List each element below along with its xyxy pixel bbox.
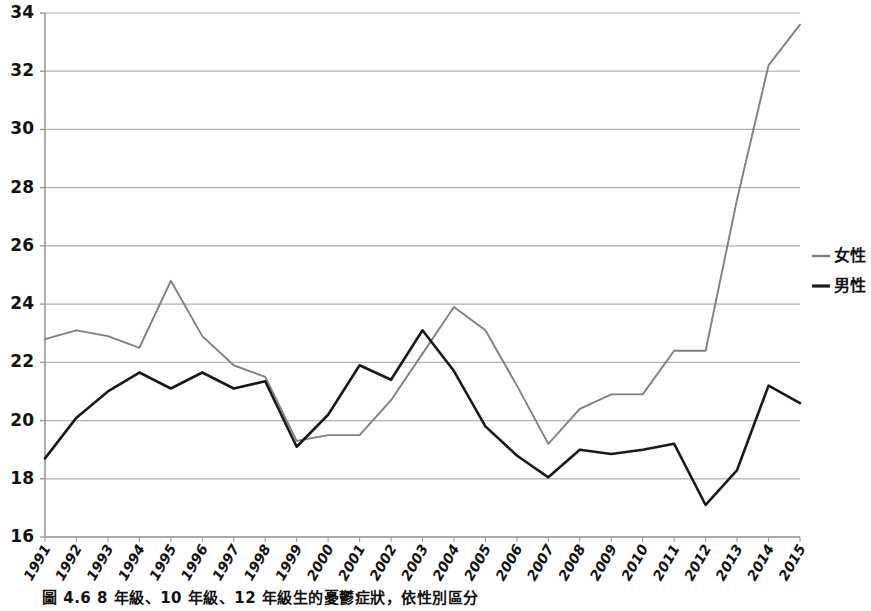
legend-label-female: 女性 [834, 246, 866, 265]
x-axis-tick-label: 2009 [587, 541, 620, 583]
y-axis-tick-label: 16 [10, 526, 34, 546]
y-axis-tick-label: 20 [10, 410, 34, 430]
x-axis-tick-label: 2007 [524, 541, 557, 583]
y-axis-tick-label: 26 [10, 235, 34, 255]
x-axis-tick-label: 2006 [492, 541, 525, 583]
figure-container: 1618202224262830323419911992199319941995… [0, 0, 871, 611]
x-axis-tick-label: 1992 [52, 542, 85, 584]
x-axis-tick-label: 1993 [83, 542, 116, 584]
y-axis-tick-label: 18 [10, 468, 34, 488]
x-axis-tick-label: 2012 [681, 542, 714, 584]
depression-symptoms-line-chart: 1618202224262830323419911992199319941995… [0, 0, 871, 585]
x-axis-tick-label: 2015 [775, 541, 808, 583]
y-axis-tick-label: 32 [10, 60, 34, 80]
x-axis-tick-label: 2002 [366, 542, 399, 584]
y-axis-tick-label: 34 [10, 2, 34, 22]
y-axis-tick-label: 24 [10, 293, 34, 313]
figure-caption: 圖 4.6 8 年級、10 年級、12 年級生的憂鬱症狀，依性別區分 [42, 586, 479, 607]
x-axis-tick-label: 2004 [429, 542, 462, 584]
x-axis-tick-label: 2005 [461, 541, 494, 583]
x-axis-tick-label: 2000 [303, 541, 336, 583]
x-axis-tick-label: 2011 [649, 542, 682, 584]
x-axis-tick-label: 2010 [618, 541, 651, 583]
x-axis-tick-label: 2014 [744, 542, 777, 584]
x-axis-tick-label: 2001 [335, 542, 368, 584]
x-axis-tick-label: 1999 [272, 541, 305, 583]
y-axis-tick-label: 28 [10, 177, 34, 197]
x-axis-tick-label: 1995 [146, 541, 179, 583]
x-axis-tick-label: 1991 [20, 542, 53, 584]
x-axis-tick-label: 2013 [712, 542, 745, 584]
x-axis-tick-label: 1997 [209, 541, 242, 583]
legend-label-male: 男性 [834, 276, 866, 295]
x-axis-tick-label: 1996 [178, 541, 211, 583]
x-axis-tick-label: 2008 [555, 541, 588, 583]
y-axis-tick-label: 22 [10, 351, 34, 371]
x-axis-tick-label: 1994 [115, 542, 148, 584]
x-axis-tick-label: 2003 [398, 542, 431, 584]
x-axis-tick-label: 1998 [240, 541, 273, 583]
y-axis-tick-label: 30 [10, 118, 34, 138]
